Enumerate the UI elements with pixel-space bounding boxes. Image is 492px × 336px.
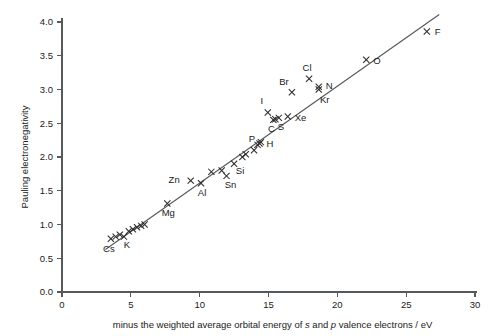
x-tick-label: 30 — [470, 299, 481, 310]
y-tick-label: 1.5 — [40, 185, 53, 196]
point-label-sn: Sn — [225, 179, 237, 190]
data-point — [208, 169, 214, 175]
data-point-o — [363, 57, 369, 63]
scatter-plot: 0.00.51.01.52.02.53.03.54.0051015202530 … — [0, 0, 492, 336]
data-point — [243, 151, 249, 157]
y-tick-label: 4.0 — [40, 16, 53, 27]
x-axis-title: minus the weighted average orbital energ… — [113, 319, 433, 330]
x-tick-label: 15 — [263, 299, 274, 310]
y-tick-label: 3.0 — [40, 84, 53, 95]
point-label-al: Al — [198, 187, 206, 198]
x-tick-label: 10 — [194, 299, 205, 310]
point-label-f: F — [435, 26, 441, 37]
tick-labels: 0.00.51.01.52.02.53.03.54.0051015202530 — [40, 16, 481, 310]
y-tick-label: 0.0 — [40, 286, 53, 297]
data-point-f — [424, 28, 430, 34]
y-axis-title: Pauling electronegativity — [19, 105, 30, 208]
y-tick-label: 2.5 — [40, 118, 53, 129]
point-label-k: K — [124, 239, 131, 250]
data-point-zn — [188, 178, 194, 184]
chart-figure: 0.00.51.01.52.02.53.03.54.0051015202530 … — [0, 0, 492, 336]
x-tick-label: 20 — [332, 299, 343, 310]
data-point-p — [251, 147, 257, 153]
point-label-i: I — [260, 95, 263, 106]
point-label-xe: Xe — [295, 112, 307, 123]
point-label-br: Br — [279, 76, 289, 87]
x-tick-label: 25 — [401, 299, 412, 310]
point-label-o: O — [373, 55, 380, 66]
y-tick-label: 3.5 — [40, 50, 53, 61]
point-label-si: Si — [236, 165, 244, 176]
point-label-h: H — [267, 138, 274, 149]
data-point-xe — [285, 113, 291, 119]
point-label-cl: Cl — [303, 62, 312, 73]
x-tick-label: 5 — [128, 299, 133, 310]
point-label-kr: Kr — [320, 94, 330, 105]
point-label-cs: Cs — [103, 243, 115, 254]
data-point-i — [265, 109, 271, 115]
x-tick-label: 0 — [59, 299, 64, 310]
data-point-br — [289, 89, 295, 95]
point-label-zn: Zn — [169, 174, 180, 185]
y-tick-label: 0.5 — [40, 253, 53, 264]
point-label-n: N — [326, 80, 333, 91]
y-tick-label: 1.0 — [40, 219, 53, 230]
data-point-labels: CsKMgZnAlSnSiPHCSIXeBrClNKrOF — [103, 26, 441, 253]
y-tick-label: 2.0 — [40, 151, 53, 162]
point-label-p: P — [249, 133, 255, 144]
axes-layer — [62, 18, 477, 292]
point-label-c: C — [268, 123, 275, 134]
axis-titles: minus the weighted average orbital energ… — [19, 105, 433, 330]
point-label-s: S — [278, 121, 284, 132]
tick-marks — [57, 22, 475, 297]
point-label-mg: Mg — [162, 207, 175, 218]
data-point-cl — [306, 76, 312, 82]
